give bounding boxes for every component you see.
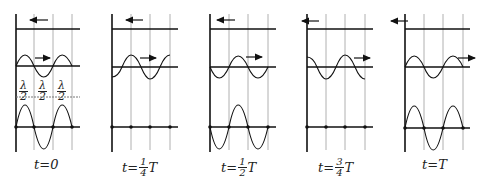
panel-t-quarter (110, 14, 178, 152)
caption-t-half: t= 12 T (221, 157, 256, 178)
panel-t-three-quarter (302, 14, 373, 152)
half-wavelength-label: λ2 (57, 81, 66, 102)
half-wavelength-label: λ2 (38, 81, 47, 102)
caption-t-full: t=T (422, 157, 447, 172)
panel-t-full (391, 14, 475, 152)
half-wavelength-label: λ2 (19, 81, 28, 102)
panel-t-half (208, 14, 276, 152)
caption-t-quarter: t= 14 T (122, 157, 157, 178)
caption-t-three-quarter: t= 34 T (318, 157, 353, 178)
caption-t0: t=0 (34, 157, 58, 172)
